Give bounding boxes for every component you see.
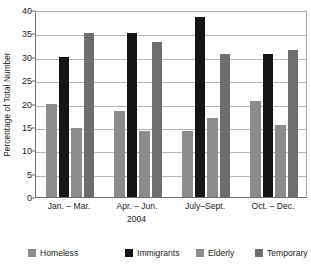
- y-axis-tick-10: 10: [22, 146, 32, 156]
- y-axis-tick-35: 35: [22, 29, 32, 39]
- bar-temporary-2: [152, 42, 163, 197]
- legend-swatch-temporary: [255, 249, 263, 257]
- legend-label-elderly: Elderly: [208, 248, 234, 258]
- bar-chart-figure: Percentage of Total Number 0510152025303…: [0, 0, 311, 267]
- bar-immigrants-2: [127, 33, 138, 197]
- x-axis-tick-labels: Jan. – Mar.Apr. – Jun.July–Sept.Oct. – D…: [35, 199, 307, 215]
- bar-elderly-2: [139, 131, 150, 197]
- y-axis-title: Percentage of Total Number: [0, 0, 14, 208]
- bar-elderly-3: [207, 118, 218, 197]
- legend-item-homeless[interactable]: Homeless: [28, 248, 78, 258]
- x-axis-tick-3: July–Sept.: [185, 201, 225, 211]
- y-axis-tick-labels: 0510152025303540: [13, 0, 35, 208]
- x-axis-tick-2: Apr. – Jun.: [116, 201, 157, 211]
- legend-label-temporary: Temporary: [267, 248, 308, 258]
- plot-area: [35, 11, 307, 198]
- legend-item-immigrants[interactable]: Immigrants: [125, 248, 180, 258]
- x-axis-tick-1: Jan. – Mar.: [48, 201, 91, 211]
- y-axis-tick-30: 30: [22, 53, 32, 63]
- bar-homeless-3: [182, 131, 193, 197]
- bar-temporary-4: [288, 50, 299, 197]
- bar-elderly-1: [71, 128, 82, 197]
- legend-swatch-elderly: [196, 249, 204, 257]
- y-axis-title-text: Percentage of Total Number: [3, 52, 12, 156]
- chart-legend: HomelessImmigrantsElderlyTemporary: [0, 248, 311, 262]
- bar-temporary-1: [84, 33, 95, 197]
- y-axis-tick-25: 25: [22, 76, 32, 86]
- bar-immigrants-3: [195, 17, 206, 197]
- y-axis-tick-15: 15: [22, 123, 32, 133]
- bar-immigrants-1: [59, 57, 70, 197]
- bar-immigrants-4: [263, 54, 274, 197]
- bar-homeless-2: [114, 111, 125, 197]
- bar-group-3: [172, 12, 240, 197]
- bar-temporary-3: [220, 54, 231, 197]
- legend-label-homeless: Homeless: [40, 248, 78, 258]
- y-axis-tick-40: 40: [22, 6, 32, 16]
- x-axis-title: 2004: [35, 214, 307, 224]
- x-axis-tick-4: Oct. – Dec.: [252, 201, 295, 211]
- bars-layer: [36, 12, 306, 197]
- legend-item-temporary[interactable]: Temporary: [255, 248, 308, 258]
- legend-item-elderly[interactable]: Elderly: [196, 248, 234, 258]
- legend-swatch-immigrants: [125, 249, 133, 257]
- y-axis-tick-20: 20: [22, 100, 32, 110]
- bar-homeless-1: [46, 104, 57, 198]
- bar-group-2: [104, 12, 172, 197]
- bar-homeless-4: [250, 101, 261, 197]
- legend-swatch-homeless: [28, 249, 36, 257]
- bar-group-1: [36, 12, 104, 197]
- bar-elderly-4: [275, 125, 286, 197]
- bar-group-4: [240, 12, 308, 197]
- legend-label-immigrants: Immigrants: [137, 248, 180, 258]
